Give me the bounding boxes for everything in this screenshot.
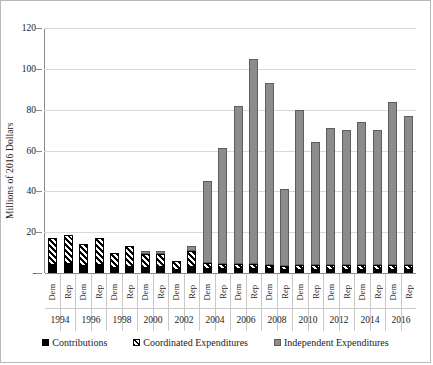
bar-slot [230, 28, 245, 273]
party-label: Rep [342, 285, 352, 299]
stacked-bar[interactable] [172, 261, 181, 273]
stacked-bar[interactable] [156, 251, 165, 273]
party-label: Rep [125, 285, 135, 299]
legend-label-independent-expenditures: Independent Expenditures [284, 337, 389, 348]
stacked-bar[interactable] [404, 116, 413, 273]
bar-slot [91, 28, 106, 273]
year-label-2012: 2012 [324, 309, 355, 331]
bar-segment-coord [141, 254, 150, 268]
bar-segment-indep [234, 106, 243, 264]
bar-segment-indep [342, 130, 351, 265]
stacked-bar[interactable] [64, 235, 73, 273]
year-label-2008: 2008 [262, 309, 293, 331]
bar-slot [107, 28, 122, 273]
stacked-bar[interactable] [326, 128, 335, 273]
bar-slot [246, 28, 261, 273]
stacked-bar[interactable] [48, 238, 57, 273]
party-label: Dem [202, 284, 212, 301]
bar-segment-indep [249, 59, 258, 264]
bar-slot [261, 28, 276, 273]
stacked-bar[interactable] [110, 253, 119, 273]
year-label-2014: 2014 [355, 309, 386, 331]
bar-series-group [45, 28, 416, 273]
stacked-bar[interactable] [218, 148, 227, 273]
bar-segment-contrib [64, 264, 73, 273]
stacked-bar[interactable] [373, 130, 382, 273]
stacked-bar[interactable] [265, 83, 274, 273]
bar-segment-coord [95, 238, 104, 265]
legend-item-independent-expenditures: Independent Expenditures [274, 337, 389, 348]
x-axis-year-labels: 1994199619982000200220042006200820102012… [45, 308, 416, 331]
party-label: Dem [109, 284, 119, 301]
party-label: Rep [218, 285, 228, 299]
bar-slot [277, 28, 292, 273]
stacked-bar[interactable] [141, 251, 150, 273]
stacked-bar[interactable] [357, 122, 366, 273]
bar-segment-indep [388, 102, 397, 265]
bar-segment-indep [404, 116, 413, 265]
party-label: Rep [156, 285, 166, 299]
bar-segment-coord [125, 246, 134, 266]
plot-area: -20406080100120 [44, 28, 416, 273]
bar-slot [339, 28, 354, 273]
party-label: Rep [63, 285, 73, 299]
stacked-bar[interactable] [79, 244, 88, 273]
bar-segment-indep [357, 122, 366, 265]
party-label: Rep [187, 285, 197, 299]
party-label: Dem [171, 284, 181, 301]
stacked-bar[interactable] [249, 59, 258, 273]
bar-segment-coord [64, 235, 73, 264]
legend-swatch-coordinated-icon [133, 339, 140, 346]
bar-segment-indep [280, 189, 289, 266]
bar-segment-coord [110, 253, 119, 268]
year-label-2010: 2010 [293, 309, 324, 331]
stacked-bar[interactable] [311, 142, 320, 273]
y-tick-60 [36, 151, 42, 152]
party-label: Dem [295, 284, 305, 301]
y-tick-120 [36, 28, 42, 29]
y-tick-label-0: - [6, 268, 36, 278]
stacked-bar[interactable] [388, 102, 397, 273]
bar-slot [308, 28, 323, 273]
stacked-bar[interactable] [125, 246, 134, 273]
bar-slot [45, 28, 60, 273]
year-label-2000: 2000 [138, 309, 169, 331]
bar-slot [370, 28, 385, 273]
bar-segment-coord [48, 238, 57, 265]
stacked-bar[interactable] [234, 106, 243, 273]
bar-segment-indep [295, 110, 304, 265]
bar-segment-indep [373, 130, 382, 265]
stacked-bar[interactable] [342, 130, 351, 273]
stacked-bar[interactable] [203, 181, 212, 273]
stacked-bar[interactable] [95, 238, 104, 273]
bar-slot [76, 28, 91, 273]
chart-figure: Millions of 2016 Dollars -20406080100120… [0, 0, 431, 363]
bar-slot [200, 28, 215, 273]
y-tick-label-100: 100 [6, 64, 36, 74]
stacked-bar[interactable] [295, 110, 304, 273]
bar-slot [292, 28, 307, 273]
y-tick-label-80: 80 [6, 105, 36, 115]
y-tick-100 [36, 69, 42, 70]
year-label-2004: 2004 [200, 309, 231, 331]
bar-slot [385, 28, 400, 273]
party-label: Rep [280, 285, 290, 299]
party-label: Dem [264, 284, 274, 301]
y-tick-20 [36, 232, 42, 233]
y-tick-label-120: 120 [6, 23, 36, 33]
party-label: Dem [233, 284, 243, 301]
bar-segment-contrib [95, 265, 104, 273]
stacked-bar[interactable] [280, 189, 289, 273]
legend-item-coordinated-expenditures: Coordinated Expenditures [133, 337, 248, 348]
bar-slot [169, 28, 184, 273]
bar-segment-contrib [79, 266, 88, 273]
bar-slot [215, 28, 230, 273]
bar-slot [354, 28, 369, 273]
legend-item-contributions: Contributions [42, 337, 107, 348]
stacked-bar[interactable] [187, 246, 196, 273]
year-label-2006: 2006 [231, 309, 262, 331]
y-tick-label-40: 40 [6, 186, 36, 196]
bar-segment-indep [218, 148, 227, 263]
bar-segment-contrib [48, 265, 57, 273]
chart-legend: Contributions Coordinated Expenditures I… [1, 337, 430, 348]
